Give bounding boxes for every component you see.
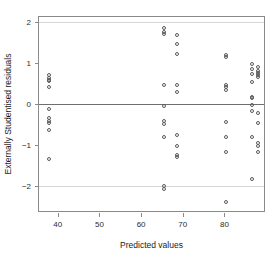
data-point [175, 83, 179, 87]
data-point [162, 187, 166, 191]
data-point [224, 88, 228, 92]
data-point [175, 52, 179, 56]
data-point [250, 109, 254, 113]
x-axis-tick [58, 213, 59, 217]
y-axis-tick [35, 145, 39, 146]
x-axis-tick-label: 60 [137, 220, 146, 229]
data-point [250, 67, 254, 71]
data-point [175, 155, 179, 159]
data-point [224, 135, 228, 139]
plot-frame: 4050607080210−1−2 [38, 16, 265, 212]
y-axis-tick-label: −1 [22, 140, 31, 149]
y-axis-tick-label: 0 [27, 99, 31, 108]
data-point [256, 121, 260, 125]
x-axis-tick-label: 80 [220, 220, 229, 229]
plot-area [39, 17, 264, 211]
y-axis-tick-label: 1 [27, 58, 31, 67]
data-point [162, 122, 166, 126]
x-axis-tick [224, 213, 225, 217]
data-point [250, 80, 254, 84]
x-axis-tick-label: 40 [53, 220, 62, 229]
y-axis-tick [35, 63, 39, 64]
y-axis-tick-label: −2 [22, 181, 31, 190]
data-point [175, 90, 179, 94]
data-point [47, 128, 51, 132]
data-point [256, 75, 260, 79]
reference-line-y-neg2 [39, 186, 264, 187]
data-point [47, 157, 51, 161]
data-point [250, 72, 254, 76]
data-point [224, 55, 228, 59]
data-point [256, 150, 260, 154]
data-point [175, 42, 179, 46]
data-point [162, 135, 166, 139]
x-axis-tick [141, 213, 142, 217]
data-point [162, 104, 166, 108]
y-axis-tick [35, 186, 39, 187]
x-axis-tick [99, 213, 100, 217]
data-point [224, 120, 228, 124]
data-point [47, 107, 51, 111]
data-point [47, 85, 51, 89]
reference-line-y-0 [39, 104, 264, 105]
y-axis-title-text: Externally Studentised residuals [3, 54, 13, 175]
data-point [47, 79, 51, 83]
data-point [175, 33, 179, 37]
data-point [250, 62, 254, 66]
data-point [250, 96, 254, 100]
data-point [256, 144, 260, 148]
data-point [224, 150, 228, 154]
x-axis-tick-label: 70 [178, 220, 187, 229]
y-axis-tick [35, 22, 39, 23]
data-point [250, 103, 254, 107]
data-point [162, 32, 166, 36]
residual-plot-figure: Externally Studentised residuals 4050607… [0, 0, 278, 262]
data-point [47, 121, 51, 125]
y-axis-tick-label: 2 [27, 17, 31, 26]
data-point [250, 135, 254, 139]
data-point [175, 144, 179, 148]
data-point [250, 177, 254, 181]
y-axis-tick [35, 104, 39, 105]
data-point [175, 133, 179, 137]
data-point [224, 200, 228, 204]
y-axis-title: Externally Studentised residuals [2, 16, 14, 212]
x-axis-tick-label: 50 [95, 220, 104, 229]
x-axis-tick [183, 213, 184, 217]
data-point [256, 111, 260, 115]
reference-line-y-2 [39, 22, 264, 23]
data-point [162, 83, 166, 87]
x-axis-title: Predicted values [38, 240, 265, 250]
